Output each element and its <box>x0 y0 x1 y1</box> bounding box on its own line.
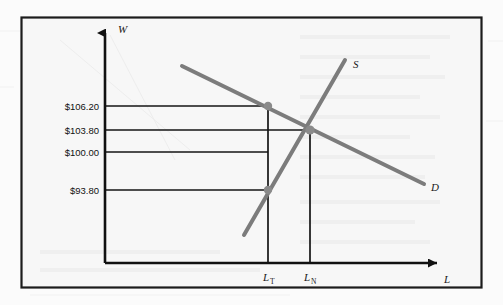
quantity-tick-LT-subscript: T <box>270 277 275 286</box>
quantity-tick-LN-subscript: N <box>311 277 317 286</box>
economics-diagram-canvas: W L S D $106.20 $103.80 $100.00 $93.80 L… <box>0 0 503 305</box>
wage-tick-label-106-20: $106.20 <box>65 101 99 112</box>
y-axis-label: W <box>118 23 128 35</box>
wage-tick-label-93-80: $93.80 <box>70 185 99 196</box>
point-supply-with-tax <box>264 186 272 194</box>
demand-curve-label: D <box>430 181 439 193</box>
figure-root: W L S D $106.20 $103.80 $100.00 $93.80 L… <box>0 0 503 305</box>
quantity-tick-LT-base: L <box>262 271 269 283</box>
point-demand-with-tax <box>264 102 272 110</box>
wage-tick-label-100-00: $100.00 <box>65 147 99 158</box>
supply-curve-label: S <box>353 58 359 70</box>
quantity-tick-LN-base: L <box>303 271 310 283</box>
x-axis-label: L <box>443 273 450 285</box>
point-equilibrium <box>305 125 314 134</box>
wage-tick-label-103-80: $103.80 <box>65 125 99 136</box>
